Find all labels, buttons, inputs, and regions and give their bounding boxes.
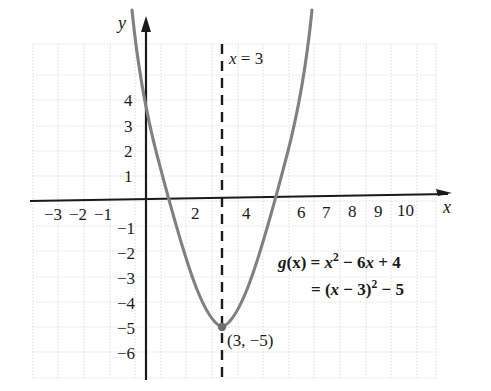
x-axis <box>30 189 452 201</box>
vertex-label: (3, −5) <box>227 332 273 349</box>
y-tick-label-4: 4 <box>124 92 133 109</box>
y-tick-label-1: 1 <box>124 168 133 185</box>
function-term1-base: x <box>325 253 334 272</box>
function-term2: − 6 <box>339 253 366 272</box>
x-tick-label-neg2: −2 <box>69 206 87 223</box>
y-tick-label-neg1: −1 <box>117 220 135 237</box>
x-tick-label-2: 2 <box>191 205 200 222</box>
function-term3: + 4 <box>374 253 401 272</box>
y-tick-label-neg4: −4 <box>117 295 135 312</box>
x-tick-label-6: 6 <box>297 204 306 221</box>
x-tick-label-neg1: −1 <box>94 206 112 223</box>
axis-of-symmetry-label-rest: = 3 <box>237 49 264 68</box>
y-tick-label-3: 3 <box>124 118 133 135</box>
function-equation-line2: = (x − 3)2 − 5 <box>311 281 404 298</box>
function-line2-eq: = ( <box>311 280 331 299</box>
function-line2-mid: − 3) <box>339 280 371 299</box>
function-line2-var: x <box>331 280 340 299</box>
function-line2-tail: − 5 <box>377 280 404 299</box>
axis-of-symmetry-label-var: x <box>229 49 237 68</box>
y-tick-label-neg5: −5 <box>117 320 135 337</box>
axis-of-symmetry-label: x = 3 <box>229 50 263 67</box>
x-axis-label: x <box>443 198 451 216</box>
graph-figure: y x 4 3 2 1 −1 −2 −3 −4 −5 −6 −3 −2 −1 2… <box>0 0 491 391</box>
x-tick-label-9: 9 <box>374 203 383 220</box>
y-tick-label-neg3: −3 <box>117 270 135 287</box>
x-tick-label-7: 7 <box>322 204 331 221</box>
x-tick-label-10: 10 <box>397 202 414 219</box>
function-name: g <box>278 253 287 272</box>
function-equation-line1: g(x) = x2 − 6x + 4 <box>278 254 401 271</box>
x-tick-label-neg3: −3 <box>44 206 62 223</box>
vertex-dot <box>218 323 226 331</box>
function-arg: (x) = <box>287 253 325 272</box>
y-tick-label-neg6: −6 <box>117 345 135 362</box>
y-tick-label-neg2: −2 <box>117 245 135 262</box>
x-tick-label-8: 8 <box>348 203 357 220</box>
x-tick-label-4: 4 <box>242 205 251 222</box>
function-term2-var: x <box>365 253 374 272</box>
y-tick-label-2: 2 <box>124 143 133 160</box>
y-axis-label: y <box>118 14 126 32</box>
